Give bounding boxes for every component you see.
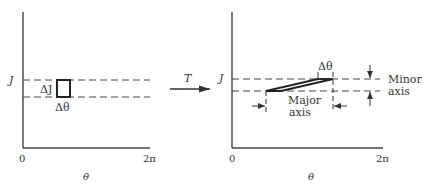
cell-height-label: ΔJ	[40, 83, 52, 96]
right-x-tick-start: 0	[229, 153, 235, 164]
left-x-tick-end: 2π	[143, 153, 156, 164]
right-x-tick-end: 2π	[376, 153, 389, 164]
sheared-phase-cell	[266, 79, 333, 91]
left-y-axis-label: J	[7, 74, 14, 87]
left-x-tick-start: 0	[19, 153, 25, 164]
initial-phase-cell	[57, 80, 70, 97]
left-panel: J ΔJ Δθ 0 2π θ	[7, 12, 156, 182]
left-x-axis-label: θ	[83, 171, 89, 182]
right-x-axis-label: θ	[308, 171, 314, 182]
mapping-arrow: T	[170, 72, 210, 89]
twist-map-diagram: J ΔJ Δθ 0 2π θ T Δθ Major axis Minor	[0, 0, 426, 189]
major-axis-label-line2: axis	[289, 106, 311, 119]
right-y-axis-label: J	[217, 72, 224, 85]
delta-theta-label: Δθ	[318, 60, 333, 73]
minor-axis-label-line2: axis	[388, 85, 410, 98]
mapping-label: T	[184, 72, 193, 85]
right-panel: Δθ Major axis Minor axis J 0 2π θ	[217, 12, 422, 182]
cell-width-label: Δθ	[55, 101, 70, 114]
